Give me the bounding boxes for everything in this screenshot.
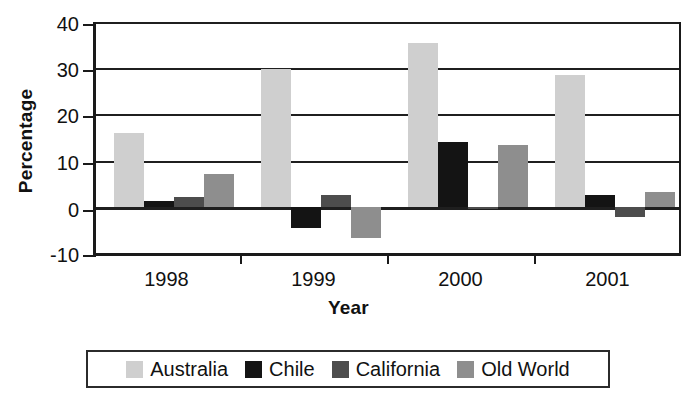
x-tick-mark bbox=[387, 253, 389, 264]
y-tick-label: 30 bbox=[57, 60, 79, 80]
x-axis-tick-labels: 1998199920002001 bbox=[93, 268, 681, 296]
plot-area: 403020100-10 bbox=[93, 22, 681, 253]
bar-australia-2000 bbox=[408, 43, 438, 207]
bar-australia-2001 bbox=[555, 75, 585, 207]
y-tick-label: 20 bbox=[57, 106, 79, 126]
x-tick-label-2001: 2001 bbox=[585, 268, 630, 291]
y-tick-label: 40 bbox=[57, 14, 79, 34]
bar-california-2001 bbox=[615, 207, 645, 217]
y-tick-label: -10 bbox=[50, 245, 79, 265]
legend-label: Australia bbox=[150, 359, 228, 379]
x-tick-mark bbox=[240, 253, 242, 264]
bar-california-1999 bbox=[321, 195, 351, 207]
bar-chile-2001 bbox=[585, 195, 615, 207]
x-tick-label-2000: 2000 bbox=[438, 268, 483, 291]
bar-oldworld-1999 bbox=[351, 207, 381, 238]
legend-swatch-oldworld-icon bbox=[457, 361, 474, 378]
x-tick-label-1999: 1999 bbox=[291, 268, 336, 291]
bars-layer bbox=[96, 22, 679, 253]
bar-oldworld-1998 bbox=[204, 174, 234, 206]
legend-swatch-chile-icon bbox=[245, 361, 262, 378]
legend-item-oldworld: Old World bbox=[457, 359, 570, 379]
legend-swatch-australia-icon bbox=[126, 361, 143, 378]
bar-chile-2000 bbox=[438, 142, 468, 207]
bar-chile-1999 bbox=[291, 207, 321, 228]
bar-oldworld-2001 bbox=[645, 192, 675, 207]
legend-label: California bbox=[356, 359, 440, 379]
y-tick-mark-30 bbox=[83, 70, 96, 72]
x-axis-title: Year bbox=[0, 297, 697, 319]
x-tick-label-1998: 1998 bbox=[144, 268, 189, 291]
x-tick-mark bbox=[534, 253, 536, 264]
y-tick-mark-10 bbox=[83, 163, 96, 165]
x-axis-line bbox=[93, 253, 681, 256]
legend-label: Old World bbox=[481, 359, 570, 379]
y-tick-mark-40 bbox=[83, 24, 96, 26]
legend-item-chile: Chile bbox=[245, 359, 315, 379]
legend-swatch-california-icon bbox=[332, 361, 349, 378]
legend-item-australia: Australia bbox=[126, 359, 228, 379]
bar-chart: Percentage 403020100-10 1998199920002001… bbox=[0, 0, 697, 402]
bar-australia-1999 bbox=[261, 69, 291, 207]
y-tick-label: 10 bbox=[57, 152, 79, 172]
legend-label: Chile bbox=[269, 359, 315, 379]
bar-australia-1998 bbox=[114, 133, 144, 207]
chart-legend: AustraliaChileCaliforniaOld World bbox=[86, 350, 610, 388]
y-tick-mark-0 bbox=[83, 210, 96, 212]
bar-chile-1998 bbox=[144, 201, 174, 207]
bar-california-1998 bbox=[174, 197, 204, 207]
bar-california-2000 bbox=[468, 207, 498, 209]
y-tick-mark-20 bbox=[83, 116, 96, 118]
legend-item-california: California bbox=[332, 359, 440, 379]
y-axis-title: Percentage bbox=[15, 81, 37, 201]
bar-oldworld-2000 bbox=[498, 145, 528, 207]
y-tick-label: 0 bbox=[68, 199, 79, 219]
